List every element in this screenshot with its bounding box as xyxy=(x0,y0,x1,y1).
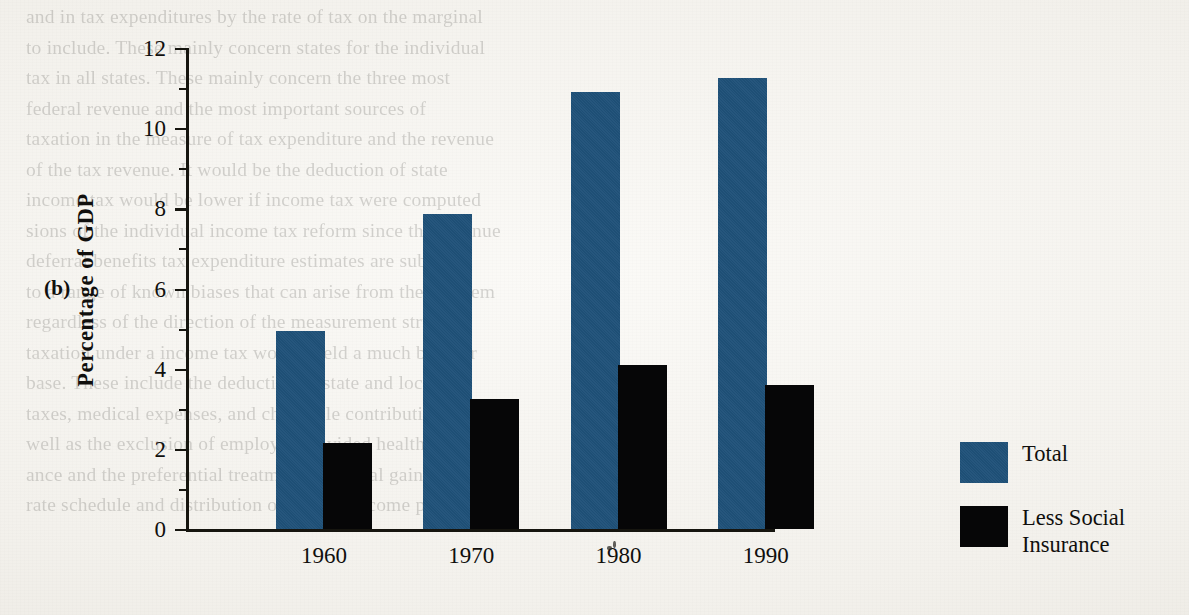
bar-1960-total xyxy=(276,331,325,529)
y-tick-label: 8 xyxy=(155,197,167,220)
scanned-figure-page: and in tax expenditures by the rate of t… xyxy=(0,0,1189,615)
x-tick-label-1970: 1970 xyxy=(448,544,494,567)
y-tick-label: 4 xyxy=(155,358,167,381)
y-tick-label: 12 xyxy=(143,37,166,60)
y-tick-label: 0 xyxy=(155,518,167,541)
bar-1990-total xyxy=(718,78,767,529)
bar-1960-less-social-insurance xyxy=(323,443,372,529)
y-tick-minor xyxy=(179,168,186,170)
legend-swatch-total xyxy=(960,442,1008,483)
bar-1970-less-social-insurance xyxy=(470,399,519,529)
panel-label: (b) xyxy=(44,276,71,301)
y-tick-minor xyxy=(179,409,186,411)
x-tick-label-1990: 1990 xyxy=(743,544,789,567)
bar-1980-less-social-insurance xyxy=(618,365,667,529)
legend-entry-less-social-insurance: Less Social Insurance xyxy=(960,504,1175,558)
y-tick-major: 4 xyxy=(175,369,186,371)
scan-speck xyxy=(607,546,612,550)
y-tick-major: 0 xyxy=(175,529,186,531)
scan-speck xyxy=(613,541,616,548)
legend-entry-total: Total xyxy=(960,440,1175,483)
bar-1980-total xyxy=(571,92,620,529)
y-tick-major: 10 xyxy=(175,128,186,130)
x-tick-label-1980: 1980 xyxy=(596,544,642,567)
x-tick-label-1960: 1960 xyxy=(301,544,347,567)
bar-1970-total xyxy=(423,214,472,529)
y-tick-label: 2 xyxy=(155,438,167,461)
y-tick-label: 6 xyxy=(155,278,167,301)
y-tick-major: 2 xyxy=(175,449,186,451)
legend-swatch-less-social-insurance xyxy=(960,506,1008,547)
legend-label-less-social-insurance: Less Social Insurance xyxy=(1022,504,1172,558)
bar-1990-less-social-insurance xyxy=(765,385,814,529)
y-tick-minor xyxy=(179,248,186,250)
y-tick-major: 6 xyxy=(175,289,186,291)
plot-area: 024681012 1960197019801990 xyxy=(186,48,775,530)
y-tick-minor xyxy=(179,489,186,491)
y-tick-label: 10 xyxy=(143,117,166,140)
y-tick-major: 12 xyxy=(175,48,186,50)
x-axis-line xyxy=(186,529,775,532)
chart-legend: Total Less Social Insurance xyxy=(960,440,1175,579)
y-axis-line xyxy=(186,48,189,531)
legend-label-total: Total xyxy=(1022,440,1068,467)
y-tick-minor xyxy=(179,88,186,90)
bar-chart: (b) Percentage of GDP 024681012 19601970… xyxy=(0,0,1189,615)
y-tick-minor xyxy=(179,329,186,331)
y-tick-major: 8 xyxy=(175,208,186,210)
y-axis-title: Percentage of GDP xyxy=(73,193,99,386)
